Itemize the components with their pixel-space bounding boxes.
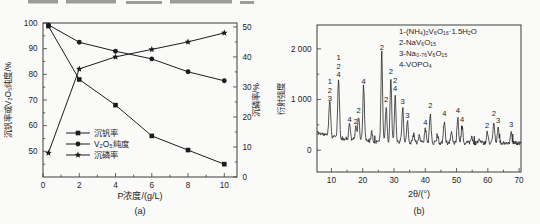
svg-text:4: 4 <box>113 181 118 190</box>
svg-text:4: 4 <box>423 118 427 127</box>
svg-text:60: 60 <box>28 121 38 130</box>
star-marker-icon <box>75 152 81 158</box>
svg-text:2: 2 <box>356 106 360 115</box>
svg-text:40: 40 <box>243 53 253 62</box>
xrd-phase-legend: 1-(NH₄)₂V₆O₁₆·1.5H₂O2-NaV₆O₁₅3-Na₀.₇₆V₆O… <box>399 27 477 69</box>
svg-text:60: 60 <box>483 176 493 185</box>
svg-text:80: 80 <box>28 70 38 79</box>
svg-text:4: 4 <box>336 70 340 79</box>
svg-text:2: 2 <box>354 117 358 126</box>
svg-text:3: 3 <box>328 94 332 103</box>
svg-text:2: 2 <box>384 95 388 104</box>
svg-text:4: 4 <box>393 84 397 93</box>
xrd-phase-legend-entry: 1-(NH₄)₂V₆O₁₆·1.5H₂O <box>399 27 477 36</box>
svg-text:10: 10 <box>220 181 230 190</box>
chart-a-frame <box>43 23 237 177</box>
svg-text:2: 2 <box>380 43 384 52</box>
svg-text:90: 90 <box>28 44 38 53</box>
svg-text:2: 2 <box>428 101 432 110</box>
svg-text:3: 3 <box>405 111 409 120</box>
chart-a-caption: (a) <box>134 206 145 216</box>
figure-canvas: 0246810506070809010001020304050沉钒率V₂O₅纯度… <box>0 0 540 224</box>
chart-a-axes <box>43 23 237 177</box>
chart-a-ylabel-right: 沉磷率/% <box>251 83 261 117</box>
chart-a-legend-label: 沉钒率 <box>94 128 118 138</box>
phosphorus-precipitation-series <box>45 30 227 156</box>
svg-text:4: 4 <box>347 115 351 124</box>
svg-text:0: 0 <box>41 181 46 190</box>
svg-text:50: 50 <box>243 23 253 32</box>
scan-artifacts <box>28 0 254 4</box>
svg-text:40: 40 <box>421 176 431 185</box>
svg-text:100: 100 <box>24 19 38 28</box>
chart-a-legend-label: 沉磷率 <box>94 150 118 160</box>
svg-text:2: 2 <box>77 181 82 190</box>
chart-b-ylabel: 衍射强度 <box>276 82 286 115</box>
svg-text:1 000: 1 000 <box>291 95 312 104</box>
svg-text:4: 4 <box>442 109 446 118</box>
svg-text:30: 30 <box>389 176 399 185</box>
vanadium-precipitation-series <box>46 24 226 167</box>
svg-text:6: 6 <box>150 181 155 190</box>
chart-b-xlabel: 2θ/(°) <box>408 189 430 199</box>
svg-text:4: 4 <box>361 77 365 86</box>
svg-text:2 000: 2 000 <box>291 45 312 54</box>
precipitation-line-chart: 0246810506070809010001020304050沉钒率V₂O₅纯度… <box>3 19 261 216</box>
xrd-pattern-chart: 1020304050607001 0002 000123124422422224… <box>276 25 524 216</box>
svg-text:2: 2 <box>485 121 489 130</box>
svg-text:70: 70 <box>28 96 38 105</box>
chart-a-ylabel-left: 沉钒率或V₂O₅纯度/% <box>3 61 13 138</box>
svg-text:50: 50 <box>28 147 38 156</box>
svg-text:4: 4 <box>456 106 460 115</box>
svg-text:10: 10 <box>327 176 337 185</box>
square-marker-icon <box>76 131 81 136</box>
svg-text:3: 3 <box>509 120 513 129</box>
xrd-phase-legend-entry: 2-NaV₆O₁₅ <box>399 38 436 47</box>
chart-b-caption: (b) <box>413 206 424 216</box>
circle-marker-icon <box>76 142 81 147</box>
chart-b-frame <box>317 25 521 172</box>
svg-text:20: 20 <box>358 176 368 185</box>
svg-text:0: 0 <box>307 146 312 155</box>
svg-text:8: 8 <box>186 181 191 190</box>
scanned-figure-page: 0246810506070809010001020304050沉钒率V₂O₅纯度… <box>0 0 540 224</box>
svg-text:3: 3 <box>401 97 405 106</box>
svg-text:0: 0 <box>243 173 248 182</box>
svg-text:50: 50 <box>452 176 462 185</box>
svg-text:4: 4 <box>460 115 464 124</box>
chart-a-legend: 沉钒率V₂O₅纯度沉磷率 <box>66 128 129 160</box>
chart-a-xlabel: P浓度/(g/L) <box>117 190 162 201</box>
xrd-phase-legend-entry: 3-Na₀.₇₆V₆O₁₅ <box>399 49 447 58</box>
svg-text:10: 10 <box>243 143 253 152</box>
xrd-phase-legend-entry: 4-VOPO₄ <box>399 60 432 69</box>
svg-text:70: 70 <box>515 176 525 185</box>
svg-text:3: 3 <box>496 116 500 125</box>
chart-a-legend-label: V₂O₅纯度 <box>94 139 129 149</box>
